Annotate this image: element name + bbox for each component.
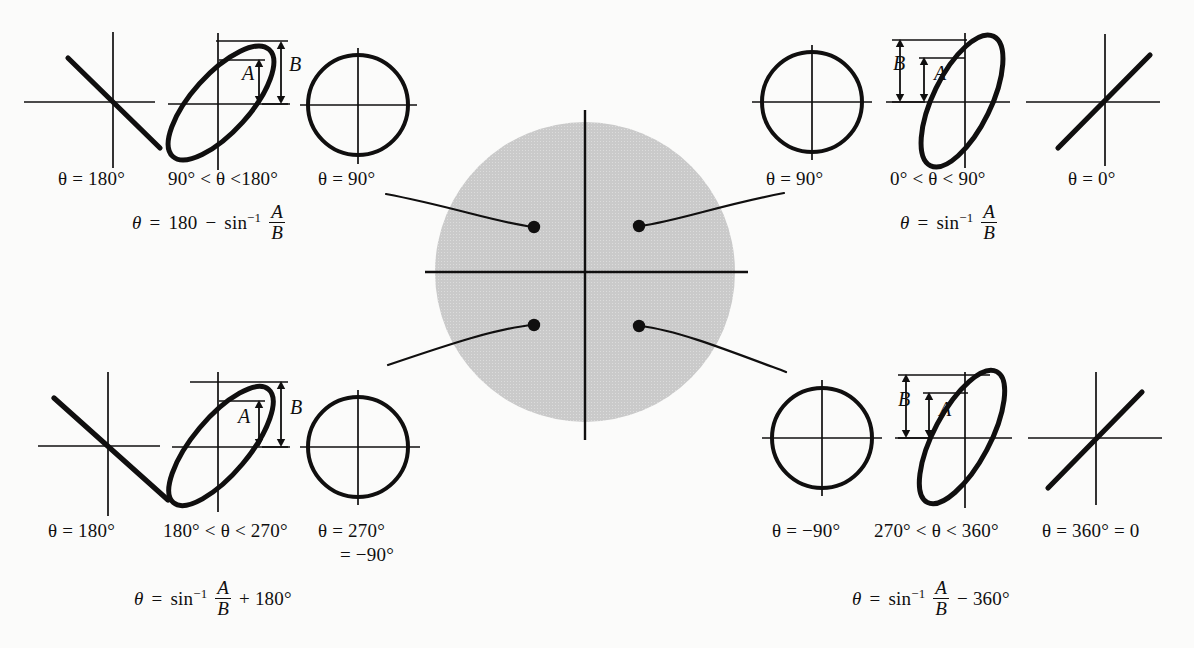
fraction-numerator: A xyxy=(215,578,231,598)
leader-dot-top-left xyxy=(528,221,540,233)
fraction-numerator: A xyxy=(269,202,285,222)
marker-b-tr: B xyxy=(893,52,905,75)
marker-b-br: B xyxy=(898,388,910,411)
fraction-denominator: B xyxy=(933,598,949,619)
panel-br-ellipse xyxy=(895,359,1021,516)
label-bl-circle-second: = −90° xyxy=(340,544,394,566)
fraction-denominator: B xyxy=(215,598,231,619)
panel-tr-line xyxy=(1026,34,1160,166)
marker-b-tl: B xyxy=(289,53,301,76)
lissajous-ellipse xyxy=(152,371,290,520)
b-arrowhead-down xyxy=(896,94,904,102)
fraction-numerator: A xyxy=(933,578,949,598)
leader-dot-bottom-left xyxy=(528,319,540,331)
formula-minus: − xyxy=(202,212,219,233)
panel-br-line xyxy=(1028,372,1162,505)
formula-theta: θ xyxy=(900,212,910,233)
label-tl-ellipse: 90° < θ <180° xyxy=(168,168,278,190)
panel-tl-line xyxy=(24,32,160,168)
b-arrowhead-up xyxy=(277,41,285,49)
figure-vector-canvas xyxy=(0,0,1194,648)
marker-a-bl: A xyxy=(238,405,250,428)
panel-br-circle xyxy=(762,380,882,496)
lissajous-ellipse xyxy=(903,359,1022,516)
lissajous-line xyxy=(68,58,160,148)
panel-tr-circle xyxy=(752,45,872,160)
lissajous-ellipse xyxy=(151,30,290,176)
label-tr-ellipse: 0° < θ < 90° xyxy=(890,168,986,190)
b-arrowhead-down xyxy=(902,430,910,438)
label-tl-line: θ = 180° xyxy=(58,168,125,190)
formula-tail: + 180° xyxy=(239,588,292,609)
label-tr-line: θ = 0° xyxy=(1068,168,1116,190)
formula-theta: θ xyxy=(134,588,144,609)
panel-tr-ellipse xyxy=(886,24,1020,179)
formula-theta: θ xyxy=(852,588,862,609)
formula-exponent: −1 xyxy=(959,210,973,225)
lissajous-phase-figure: A B B A A B B A θ = 180° 90° < θ <180° θ… xyxy=(0,0,1194,648)
b-arrowhead-down xyxy=(277,96,285,104)
a-arrowhead-down xyxy=(920,94,928,102)
leader-dot-top-right xyxy=(633,220,645,232)
label-tr-circle: θ = 90° xyxy=(766,168,823,190)
fraction-a-over-b: A B xyxy=(981,202,997,243)
marker-a-tl: A xyxy=(242,62,254,85)
formula-equals: = xyxy=(147,212,164,233)
panel-bl-circle xyxy=(300,390,420,505)
label-bl-ellipse: 180° < θ < 270° xyxy=(163,520,288,542)
fraction-denominator: B xyxy=(269,222,285,243)
formula-exponent: −1 xyxy=(911,586,925,601)
formula-sin: sin xyxy=(224,212,247,233)
panel-tl-ellipse xyxy=(151,30,290,176)
label-bl-circle: θ = 270° xyxy=(318,520,385,542)
formula-term-180: 180 xyxy=(168,212,197,233)
formula-sin: sin xyxy=(888,588,911,609)
formula-bl: θ = sin−1 A B + 180° xyxy=(134,578,292,619)
label-br-circle: θ = −90° xyxy=(772,520,840,542)
panel-tl-circle xyxy=(300,48,417,164)
lissajous-line xyxy=(1048,392,1142,488)
formula-exponent: −1 xyxy=(247,210,261,225)
fraction-a-over-b: A B xyxy=(933,578,949,619)
formula-tr: θ = sin−1 A B xyxy=(900,202,1000,243)
fraction-a-over-b: A B xyxy=(215,578,231,619)
lissajous-line xyxy=(54,398,168,500)
marker-b-bl: B xyxy=(290,396,302,419)
marker-a-tr: A xyxy=(934,62,946,85)
formula-tl: θ = 180 − sin−1 A B xyxy=(132,202,288,243)
leader-dot-bottom-right xyxy=(633,320,645,332)
formula-theta: θ xyxy=(132,212,142,233)
formula-equals: = xyxy=(915,212,932,233)
panel-bl-ellipse xyxy=(152,371,290,520)
lissajous-ellipse xyxy=(904,24,1019,179)
formula-tail: − 360° xyxy=(957,588,1010,609)
b-arrowhead-down xyxy=(277,439,285,447)
formula-exponent: −1 xyxy=(193,586,207,601)
fraction-numerator: A xyxy=(981,202,997,222)
label-bl-line: θ = 180° xyxy=(48,520,115,542)
formula-br: θ = sin−1 A B − 360° xyxy=(852,578,1010,619)
shaded-quadrant-circle xyxy=(425,110,748,440)
formula-sin: sin xyxy=(936,212,959,233)
label-br-line: θ = 360° = 0 xyxy=(1042,520,1140,542)
formula-equals: = xyxy=(867,588,884,609)
fraction-a-over-b: A B xyxy=(269,202,285,243)
label-br-ellipse: 270° < θ < 360° xyxy=(874,520,999,542)
label-tl-circle: θ = 90° xyxy=(318,168,375,190)
formula-sin: sin xyxy=(170,588,193,609)
panel-bl-line xyxy=(38,372,168,516)
marker-a-br: A xyxy=(939,398,951,421)
fraction-denominator: B xyxy=(981,222,997,243)
formula-equals: = xyxy=(149,588,166,609)
